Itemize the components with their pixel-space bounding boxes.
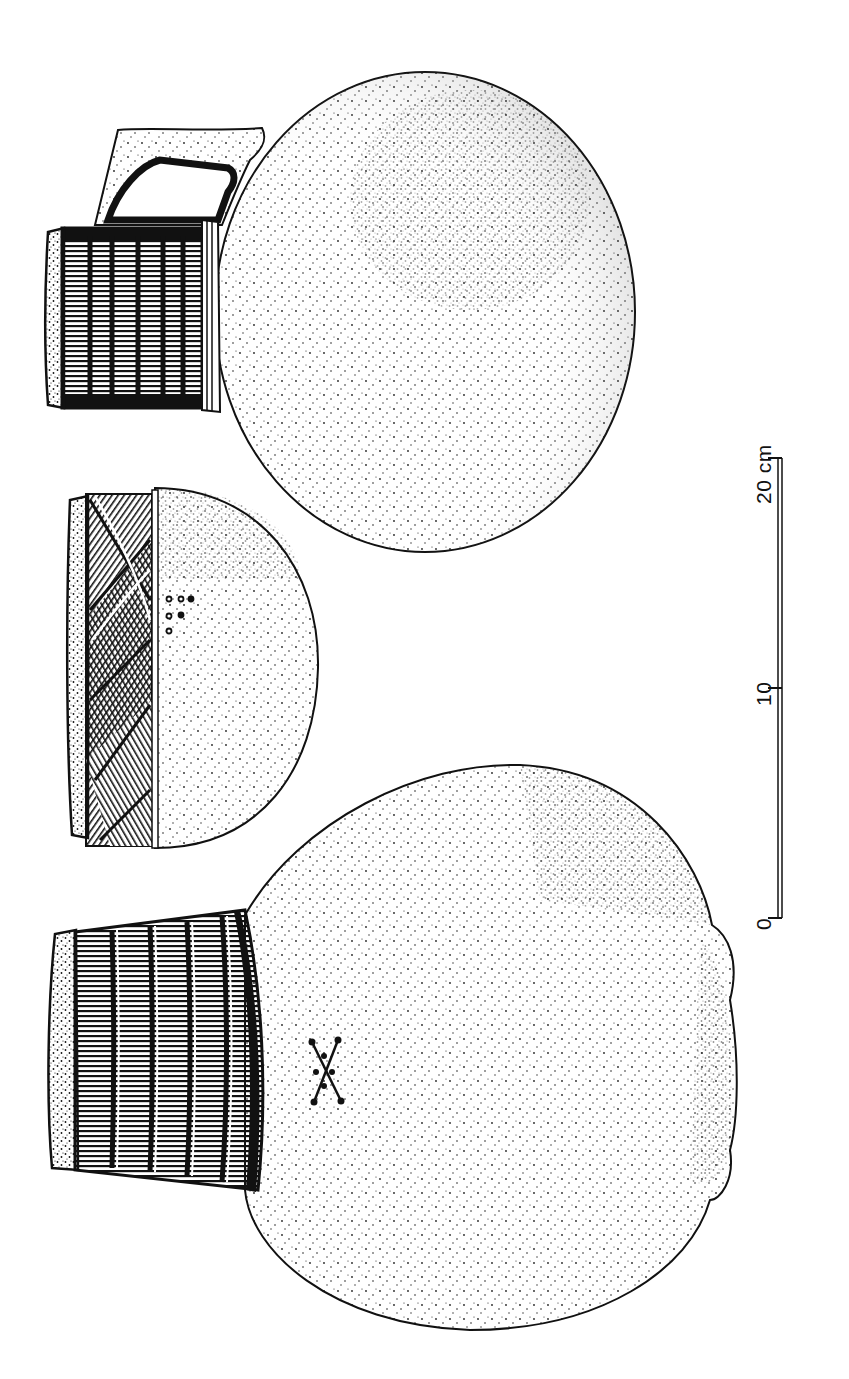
scale-label-0: 0: [752, 918, 776, 930]
vessel-large-flask: [48, 765, 736, 1330]
vessel-bowl: [67, 488, 318, 848]
rim: [67, 496, 88, 838]
rim: [48, 930, 78, 1170]
vessel-handled-flask: [45, 72, 635, 552]
scale-label-20cm: 20 cm: [752, 444, 776, 504]
pottery-figure: [0, 0, 849, 1379]
neck: [75, 910, 263, 1190]
rim: [45, 228, 64, 408]
scale-label-10: 10: [752, 682, 776, 706]
